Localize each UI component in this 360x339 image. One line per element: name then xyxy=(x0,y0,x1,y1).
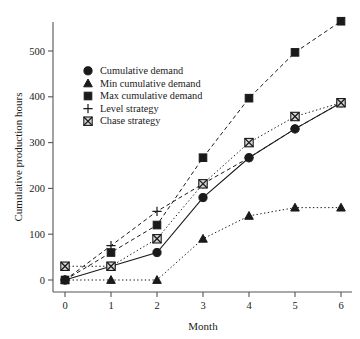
data-point xyxy=(61,262,69,270)
data-point xyxy=(199,154,207,162)
y-axis-title: Cumulative production hours xyxy=(12,93,24,222)
x-tick-label: 6 xyxy=(338,300,343,311)
chart-svg: 01002003004005000123456MonthCumulative p… xyxy=(0,0,360,339)
data-point xyxy=(337,203,346,211)
data-point xyxy=(245,138,253,146)
x-tick-label: 0 xyxy=(62,300,67,311)
series-1 xyxy=(61,203,346,283)
legend-item: Min cumulative demand xyxy=(84,78,202,89)
data-point xyxy=(153,221,161,229)
y-tick-label: 0 xyxy=(40,275,45,286)
legend-label: Cumulative demand xyxy=(100,65,184,76)
data-point xyxy=(153,235,161,243)
data-point xyxy=(245,211,254,219)
legend-item: Chase strategy xyxy=(84,115,161,126)
y-tick-label: 500 xyxy=(29,46,45,57)
data-point xyxy=(199,234,208,242)
data-point xyxy=(245,94,253,102)
data-point xyxy=(337,17,345,25)
legend: Cumulative demandMin cumulative demandMa… xyxy=(83,65,203,126)
data-point xyxy=(291,49,299,57)
legend-label: Min cumulative demand xyxy=(100,78,202,89)
series-group xyxy=(60,17,345,284)
legend-item: Max cumulative demand xyxy=(84,90,203,101)
legend-label: Chase strategy xyxy=(100,115,161,126)
series-2 xyxy=(61,17,345,283)
x-axis-title: Month xyxy=(188,320,218,332)
y-tick-label: 400 xyxy=(29,91,45,102)
circle-marker-icon xyxy=(84,67,92,75)
legend-label: Max cumulative demand xyxy=(100,90,203,101)
series-0 xyxy=(61,99,345,284)
x-tick-label: 1 xyxy=(108,300,113,311)
y-tick-label: 100 xyxy=(29,229,45,240)
data-point xyxy=(153,248,161,256)
square-marker-icon xyxy=(84,92,92,100)
legend-item: Cumulative demand xyxy=(84,65,184,76)
x-tick-label: 4 xyxy=(246,300,252,311)
plus-marker-icon xyxy=(83,104,92,113)
crossed-square-marker-icon xyxy=(84,117,92,125)
data-point xyxy=(199,193,207,201)
data-point xyxy=(337,99,345,107)
triangle-marker-icon xyxy=(84,79,93,87)
data-point xyxy=(107,262,115,270)
cumulative-production-chart: 01002003004005000123456MonthCumulative p… xyxy=(0,0,360,339)
x-tick-label: 2 xyxy=(154,300,159,311)
x-tick-label: 5 xyxy=(292,300,297,311)
data-point xyxy=(199,180,207,188)
data-point xyxy=(291,203,300,211)
y-tick-label: 300 xyxy=(29,137,45,148)
legend-label: Level strategy xyxy=(100,103,159,114)
data-point xyxy=(291,112,299,120)
x-tick-label: 3 xyxy=(200,300,205,311)
data-point xyxy=(152,207,161,216)
legend-item: Level strategy xyxy=(83,103,159,114)
y-tick-label: 200 xyxy=(29,183,45,194)
